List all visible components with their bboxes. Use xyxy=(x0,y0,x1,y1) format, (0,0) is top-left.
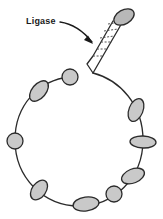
diagram-canvas: Ligase xyxy=(0,0,163,219)
ligase-label: Ligase xyxy=(26,16,56,26)
nucleosome-bottom-right-small xyxy=(106,186,122,202)
nucleosome-right-middle xyxy=(130,136,156,149)
nucleosome-top-left-small xyxy=(62,69,78,85)
figure-container: Ligase xyxy=(0,0,163,219)
nucleosome-left-small xyxy=(7,133,23,149)
